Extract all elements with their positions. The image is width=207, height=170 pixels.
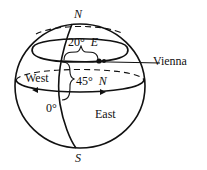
prime-meridian-label: 0°: [46, 101, 57, 115]
vienna-point: [96, 58, 101, 63]
east-arrow-icon: [100, 89, 106, 95]
latitude-dir: N: [98, 74, 108, 88]
east-label: East: [95, 107, 116, 121]
longitude-value: 20°: [68, 35, 85, 49]
longitude-label: 20° E: [68, 35, 99, 49]
longitude-dir: E: [90, 35, 99, 49]
west-label: West: [25, 71, 49, 85]
vienna-label: Vienna: [153, 54, 188, 68]
upper-back-dashed-arc: [36, 27, 124, 35]
north-label: N: [73, 7, 83, 21]
latitude-brace: [62, 62, 74, 100]
globe-diagram: N S 20° E 45° N 0° West East Vienna: [0, 0, 207, 170]
south-label: S: [75, 151, 81, 165]
vienna-point-2: [102, 59, 106, 63]
latitude-value: 45°: [76, 74, 93, 88]
latitude-label: 45° N: [76, 74, 108, 88]
